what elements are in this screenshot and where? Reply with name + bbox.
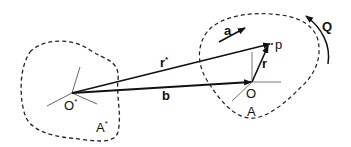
label-point-p: p — [275, 37, 282, 52]
point-p-dot — [271, 43, 273, 45]
vector-a-arrow — [219, 28, 245, 42]
label-point-o: O — [246, 86, 256, 101]
label-region-a-star: A* — [96, 119, 108, 135]
label-vector-b: b — [162, 88, 170, 103]
label-vector-a: a — [224, 23, 232, 38]
label-region-a: A — [247, 104, 256, 119]
vector-diagram: O* A* r* b r a p O A Q — [0, 0, 351, 147]
label-rotation-q: Q — [322, 19, 332, 34]
vector-r-star-arrow — [72, 44, 270, 93]
label-vector-r-star: r* — [160, 55, 169, 70]
label-vector-r: r — [262, 56, 267, 71]
label-o-star: O* — [64, 97, 77, 113]
axes-o-icon — [232, 52, 281, 101]
